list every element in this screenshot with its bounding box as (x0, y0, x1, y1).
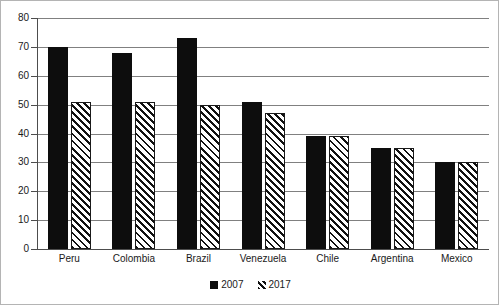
bar-colombia-2017[interactable] (135, 102, 155, 249)
bar-mexico-2017[interactable] (458, 162, 478, 249)
y-axis-tick-label: 30 (5, 157, 29, 167)
x-axis-label-chile: Chile (295, 253, 360, 264)
y-axis-tick (31, 47, 37, 48)
bar-colombia-2007[interactable] (112, 53, 132, 249)
x-axis-baseline (37, 249, 489, 250)
chart-legend: 20072017 (1, 279, 499, 290)
bar-chart: 01020304050607080 PeruColombiaBrazilVene… (0, 0, 499, 305)
x-axis-label-peru: Peru (37, 253, 102, 264)
bar-brazil-2017[interactable] (200, 105, 220, 249)
bar-group (37, 18, 102, 249)
legend-entry-2007[interactable]: 2007 (210, 279, 243, 290)
legend-swatch-icon-2017 (258, 281, 266, 289)
bar-brazil-2007[interactable] (177, 38, 197, 249)
bar-chile-2017[interactable] (329, 136, 349, 249)
legend-label-2017: 2017 (269, 279, 291, 290)
legend-swatch-icon-2007 (210, 281, 218, 289)
bar-peru-2007[interactable] (48, 47, 68, 249)
y-axis-tick (31, 220, 37, 221)
x-axis-label-brazil: Brazil (166, 253, 231, 264)
bar-group (360, 18, 425, 249)
y-axis-tick (31, 191, 37, 192)
x-axis-label-venezuela: Venezuela (231, 253, 296, 264)
y-axis-tick (31, 18, 37, 19)
bar-venezuela-2017[interactable] (265, 113, 285, 249)
y-axis-tick (31, 76, 37, 77)
bar-peru-2017[interactable] (71, 102, 91, 249)
x-axis-label-colombia: Colombia (102, 253, 167, 264)
bar-group (166, 18, 231, 249)
y-axis-tick (31, 105, 37, 106)
legend-entry-2017[interactable]: 2017 (258, 279, 291, 290)
y-axis-tick-labels: 01020304050607080 (1, 1, 29, 305)
bar-chile-2007[interactable] (306, 136, 326, 249)
y-axis-tick-label: 60 (5, 71, 29, 81)
x-axis-label-argentina: Argentina (360, 253, 425, 264)
y-axis-tick (31, 134, 37, 135)
bars-layer (37, 18, 489, 249)
y-axis-tick-label: 80 (5, 13, 29, 23)
bar-venezuela-2007[interactable] (242, 102, 262, 249)
bar-group (102, 18, 167, 249)
y-axis-tick-label: 10 (5, 215, 29, 225)
bar-group (295, 18, 360, 249)
bar-group (231, 18, 296, 249)
x-axis-label-mexico: Mexico (424, 253, 489, 264)
bar-mexico-2007[interactable] (435, 162, 455, 249)
y-axis-tick-label: 20 (5, 186, 29, 196)
bar-argentina-2017[interactable] (394, 148, 414, 249)
y-axis-tick (31, 162, 37, 163)
y-axis-tick (31, 249, 37, 250)
y-axis-tick-label: 70 (5, 42, 29, 52)
y-axis-tick-label: 0 (5, 244, 29, 254)
y-axis-tick-label: 40 (5, 129, 29, 139)
legend-label-2007: 2007 (221, 279, 243, 290)
bar-argentina-2007[interactable] (371, 148, 391, 249)
x-axis-category-labels: PeruColombiaBrazilVenezuelaChileArgentin… (37, 253, 489, 264)
y-axis-tick-label: 50 (5, 100, 29, 110)
bar-group (424, 18, 489, 249)
